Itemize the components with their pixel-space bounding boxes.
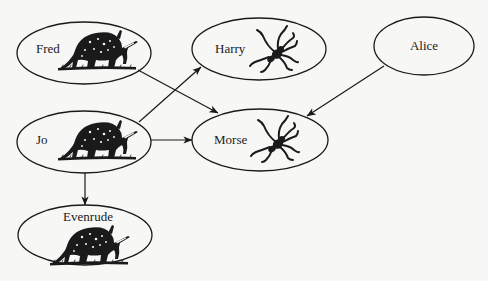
node-harry[interactable]: Harry: [192, 18, 326, 80]
graph-diagram: Fred Harry Alice Jo Morse Evenrude: [0, 0, 488, 281]
spider-icon: [251, 116, 299, 162]
edge-fred-to-morse: [138, 70, 218, 113]
aardvark-icon: [50, 225, 130, 266]
node-morse[interactable]: Morse: [192, 109, 328, 171]
aardvark-icon: [58, 120, 138, 161]
node-evenrude-label: Evenrude: [63, 209, 113, 224]
node-alice[interactable]: Alice: [374, 17, 474, 75]
node-fred-label: Fred: [36, 41, 60, 56]
node-evenrude[interactable]: Evenrude: [18, 205, 152, 266]
aardvark-icon: [58, 30, 138, 71]
node-harry-label: Harry: [215, 41, 246, 56]
node-harry-ellipse: [192, 18, 326, 80]
node-jo-label: Jo: [36, 132, 48, 147]
node-jo[interactable]: Jo: [17, 111, 151, 173]
node-morse-label: Morse: [214, 132, 247, 147]
edge-alice-to-morse: [307, 66, 384, 116]
spider-icon: [250, 26, 298, 72]
node-alice-label: Alice: [410, 38, 438, 53]
node-fred[interactable]: Fred: [17, 22, 151, 84]
node-morse-ellipse: [192, 109, 328, 171]
